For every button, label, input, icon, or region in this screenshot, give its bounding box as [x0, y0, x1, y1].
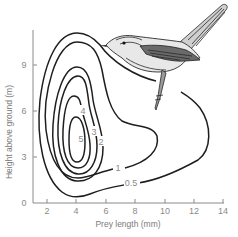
contour-2 — [53, 67, 103, 181]
x-axis-label: Prey length (mm) — [95, 219, 160, 229]
y-tick-label: 3 — [21, 152, 26, 162]
y-tick-label: 9 — [21, 60, 26, 70]
x-tick-label: 10 — [160, 206, 170, 216]
contour-4 — [63, 96, 90, 168]
contour-label-4: 4 — [80, 106, 85, 116]
contour-labels: 0.5 1 2 3 4 5 — [78, 105, 140, 188]
x-tick-label: 6 — [103, 206, 108, 216]
x-tick-label: 12 — [189, 206, 199, 216]
bird-illustration-icon — [100, 4, 227, 110]
contour-0.5-lower — [138, 92, 209, 183]
contour-chart: 0 3 6 9 2 4 6 8 10 12 14 Prey length (mm… — [0, 0, 238, 237]
contour-label-2: 2 — [98, 137, 103, 147]
y-axis-label: Height above ground (m) — [4, 85, 14, 179]
y-tick-label: 0 — [21, 198, 26, 208]
x-tick-label: 2 — [44, 206, 49, 216]
x-tick-label: 4 — [73, 206, 78, 216]
contour-label-0.5: 0.5 — [125, 178, 138, 188]
bird-eye — [122, 41, 125, 44]
x-tick-label: 14 — [218, 206, 228, 216]
contour-label-5: 5 — [78, 134, 83, 144]
x-tick-label: 8 — [132, 206, 137, 216]
contour-label-1: 1 — [115, 163, 120, 173]
contour-label-3: 3 — [91, 127, 96, 137]
y-tick-label: 6 — [21, 106, 26, 116]
